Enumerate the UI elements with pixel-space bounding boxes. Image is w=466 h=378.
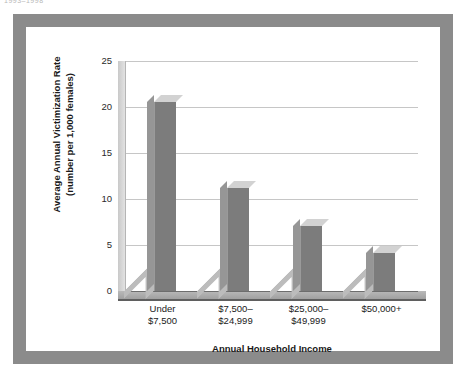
gridline-0 xyxy=(126,291,418,292)
bar-top-face xyxy=(373,246,402,253)
x-tick-label-under-7500: Under $7,500 xyxy=(126,303,199,327)
bar-slot-under-7500 xyxy=(126,61,199,291)
bar-50000-plus[interactable] xyxy=(373,253,395,291)
y-axis-title: Average Annual Victimization Rate (numbe… xyxy=(51,40,76,230)
chart-canvas: Average Annual Victimization Rate (numbe… xyxy=(26,27,440,351)
bar-top-face xyxy=(300,219,329,226)
x-tick-line2: $49,999 xyxy=(272,315,345,327)
y-axis-title-line1: Average Annual Victimization Rate xyxy=(51,40,64,230)
x-axis-title: Annual Household Income xyxy=(118,343,426,354)
x-tick-line1: Under xyxy=(126,303,199,315)
bar-side-face xyxy=(293,219,300,291)
y-axis-title-line2: (number per 1,000 females) xyxy=(63,40,76,230)
x-tick-label-50000-plus: $50,000+ xyxy=(345,303,418,315)
y-tick-label-5: 5 xyxy=(88,239,112,250)
bar-side-face xyxy=(147,95,154,291)
bar-front-face xyxy=(154,102,176,291)
y-tick-label-0: 0 xyxy=(88,285,112,296)
plot-left-wall xyxy=(118,61,126,291)
bar-slot-25000-49999 xyxy=(272,61,345,291)
chart-outer-frame: Average Annual Victimization Rate (numbe… xyxy=(13,14,453,364)
y-tick-label-10: 10 xyxy=(88,193,112,204)
bar-slot-50000-plus xyxy=(345,61,418,291)
bar-under-7500[interactable] xyxy=(154,102,176,291)
bar-side-face xyxy=(220,181,227,291)
plot-baseline xyxy=(118,299,426,301)
bar-top-face xyxy=(154,95,183,102)
bar-front-face xyxy=(373,253,395,291)
bar-front-face xyxy=(227,188,249,291)
bar-top-face xyxy=(227,181,256,188)
x-tick-line1: $50,000+ xyxy=(345,303,418,315)
x-tick-label-7500-24999: $7,500– $24,999 xyxy=(199,303,272,327)
bar-7500-24999[interactable] xyxy=(227,188,249,291)
bar-slot-7500-24999 xyxy=(199,61,272,291)
y-tick-label-15: 15 xyxy=(88,147,112,158)
plot-area: 0 5 10 15 20 25 xyxy=(118,61,418,291)
x-tick-line2: $7,500 xyxy=(126,315,199,327)
bar-chart: Average Annual Victimization Rate (numbe… xyxy=(26,27,440,351)
bar-series xyxy=(126,61,418,291)
x-tick-line2: $24,999 xyxy=(199,315,272,327)
y-tick-label-25: 25 xyxy=(88,55,112,66)
x-tick-line1: $7,500– xyxy=(199,303,272,315)
clipped-top-caption: 1993–1998 xyxy=(4,0,44,3)
y-tick-label-20: 20 xyxy=(88,101,112,112)
x-tick-label-25000-49999: $25,000– $49,999 xyxy=(272,303,345,327)
x-axis-tick-labels: Under $7,500 $7,500– $24,999 $25,000– $4… xyxy=(126,303,418,337)
bar-25000-49999[interactable] xyxy=(300,226,322,291)
bar-front-face xyxy=(300,226,322,291)
bar-side-face xyxy=(366,246,373,291)
x-tick-line1: $25,000– xyxy=(272,303,345,315)
